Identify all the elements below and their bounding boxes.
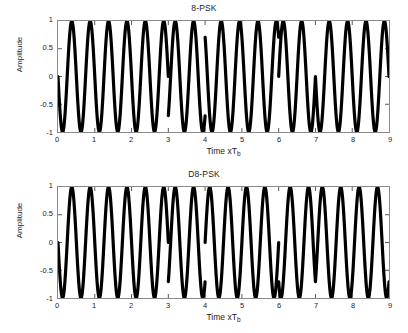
x-tick-label-2: 2 <box>121 301 141 310</box>
x-tick-label-4: 4 <box>195 135 215 144</box>
x-tick-label-9: 9 <box>380 301 400 310</box>
x-tick-label-8: 8 <box>343 301 363 310</box>
plot-panel-d8psk: D8-PSK Amplitude 1 0.5 0 -0.5 -1 <box>0 166 408 333</box>
x-tick-label-2: 2 <box>121 135 141 144</box>
waveform-svg-d8psk <box>58 187 389 298</box>
x-tick-label-7: 7 <box>306 301 326 310</box>
x-axis-label-bot: Time xTb <box>57 312 390 322</box>
x-tick-label-5: 5 <box>232 301 252 310</box>
x-axis-label-top-text: Time xT <box>206 146 236 156</box>
x-tick-label-5: 5 <box>232 135 252 144</box>
y-tick-top-0: 1 <box>23 16 53 24</box>
x-tick-label-3: 3 <box>158 301 178 310</box>
x-tick-label-8: 8 <box>343 135 363 144</box>
y-tick-bot-1: 0.5 <box>23 210 53 218</box>
y-tick-bot-2: 0 <box>23 239 53 247</box>
x-tick-label-4: 4 <box>195 301 215 310</box>
x-tick-label-1: 1 <box>84 301 104 310</box>
waveform-path-8psk <box>58 21 389 132</box>
plot-panel-8psk: 8-PSK Amplitude 1 0.5 0 -0.5 -1 <box>0 0 408 166</box>
y-tick-top-2: 0 <box>23 73 53 81</box>
x-axis-label-top-sub: b <box>237 150 241 157</box>
plot-area-d8psk <box>57 186 390 299</box>
y-tick-labels-bot: 1 0.5 0 -0.5 -1 <box>20 186 53 299</box>
x-tick-label-0: 0 <box>47 301 67 310</box>
x-tick-label-9: 9 <box>380 135 400 144</box>
x-axis-label-bot-sub: b <box>237 316 241 323</box>
x-tick-label-3: 3 <box>158 135 178 144</box>
plot-area-8psk <box>57 20 390 133</box>
x-axis-label-bot-text: Time xT <box>206 312 236 322</box>
figure-root: 8-PSK Amplitude 1 0.5 0 -0.5 -1 <box>0 0 408 333</box>
y-tick-bot-0: 1 <box>23 182 53 190</box>
waveform-path-d8psk <box>58 187 389 298</box>
y-tick-labels-top: 1 0.5 0 -0.5 -1 <box>20 20 53 133</box>
y-tick-top-1: 0.5 <box>23 44 53 52</box>
y-tick-bot-3: -0.5 <box>23 267 53 275</box>
x-tick-label-0: 0 <box>47 135 67 144</box>
x-tick-label-6: 6 <box>269 301 289 310</box>
x-tick-label-6: 6 <box>269 135 289 144</box>
waveform-svg-8psk <box>58 21 389 132</box>
y-tick-top-3: -0.5 <box>23 101 53 109</box>
plot-title-d8psk: D8-PSK <box>0 169 408 179</box>
x-axis-label-top: Time xTb <box>57 146 390 156</box>
x-tick-label-7: 7 <box>306 135 326 144</box>
x-tick-label-1: 1 <box>84 135 104 144</box>
plot-title-8psk: 8-PSK <box>0 3 408 13</box>
